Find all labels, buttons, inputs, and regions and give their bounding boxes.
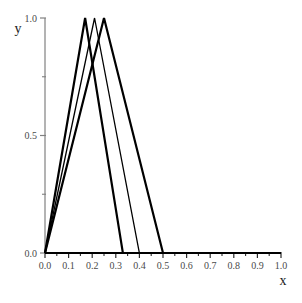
x-tick-label: 0.4 xyxy=(133,260,146,271)
y-axis: 0.00.51.0 xyxy=(25,13,47,259)
y-tick-label: 0.5 xyxy=(25,130,38,141)
x-tick-label: 0.1 xyxy=(62,260,75,271)
series-line-tent-3 xyxy=(45,18,281,253)
x-tick-label: 0.7 xyxy=(204,260,217,271)
x-tick-label: 1.0 xyxy=(275,260,288,271)
x-axis-title: x xyxy=(280,273,287,288)
chart-figure: 0.00.51.0 0.00.10.20.30.40.50.60.70.80.9… xyxy=(0,0,302,303)
x-tick-label: 0.5 xyxy=(157,260,170,271)
x-tick-label: 0.0 xyxy=(39,260,52,271)
x-tick-label: 0.8 xyxy=(228,260,241,271)
x-axis: 0.00.10.20.30.40.50.60.70.80.91.0 xyxy=(39,252,288,271)
series-line-tent-1 xyxy=(45,18,281,253)
series-line-tent-2 xyxy=(45,18,281,253)
data-series-group xyxy=(45,18,281,253)
y-tick-label: 1.0 xyxy=(25,13,38,24)
axis-titles: yx xyxy=(15,21,287,288)
y-tick-label: 0.0 xyxy=(25,248,38,259)
y-axis-title: y xyxy=(15,21,22,36)
x-tick-label: 0.2 xyxy=(86,260,99,271)
chart-canvas: 0.00.51.0 0.00.10.20.30.40.50.60.70.80.9… xyxy=(0,0,302,303)
x-tick-label: 0.3 xyxy=(110,260,123,271)
x-tick-label: 0.6 xyxy=(180,260,193,271)
x-tick-label: 0.9 xyxy=(251,260,264,271)
